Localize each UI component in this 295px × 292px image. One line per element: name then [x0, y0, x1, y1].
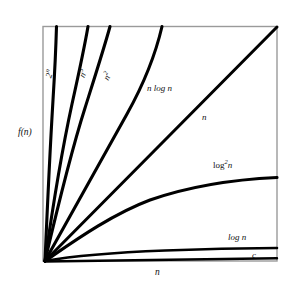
label-c: c [252, 251, 256, 260]
label-n: n [202, 113, 207, 122]
label-log-squared-n: log2n [213, 161, 232, 170]
label-log-n: log n [228, 233, 246, 242]
growth-rate-figure: 2n n3 n2 n log n n log2n log n c f(n) n [0, 0, 295, 292]
x-axis-label: n [155, 268, 160, 278]
plot-canvas [0, 0, 295, 292]
y-axis-label: f(n) [18, 128, 32, 138]
label-n-log-n: n log n [147, 84, 172, 93]
